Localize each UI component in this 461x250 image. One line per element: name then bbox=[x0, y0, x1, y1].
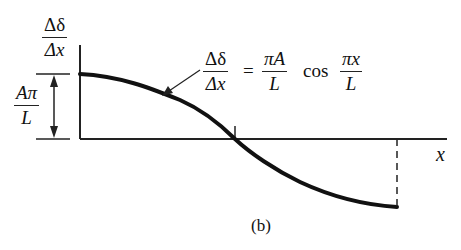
equation-lhs: Δδ Δx bbox=[203, 48, 228, 95]
fraction-bar bbox=[42, 37, 67, 38]
y-label-denominator: Δx bbox=[43, 39, 67, 61]
y-label-numerator: Δδ bbox=[42, 14, 67, 36]
equals-sign: = bbox=[243, 60, 254, 82]
coef-denominator: L bbox=[267, 73, 282, 95]
diagram-canvas bbox=[0, 0, 461, 250]
equation-coefficient: πA L bbox=[262, 48, 287, 95]
coef-numerator: πA bbox=[262, 48, 287, 70]
cos-function: cos bbox=[303, 60, 328, 82]
arrowhead-down-icon bbox=[50, 126, 58, 138]
amplitude-label: Aπ L bbox=[14, 82, 39, 129]
fraction-bar bbox=[340, 71, 362, 72]
lhs-numerator: Δδ bbox=[203, 48, 228, 70]
amplitude-denominator: L bbox=[19, 107, 34, 129]
arg-numerator: πx bbox=[340, 48, 362, 70]
amplitude-numerator: Aπ bbox=[14, 82, 39, 104]
figure-caption: (b) bbox=[251, 216, 271, 236]
arrowhead-up-icon bbox=[50, 75, 58, 87]
arg-denominator: L bbox=[344, 73, 359, 95]
x-axis-label: x bbox=[436, 143, 445, 166]
pointer-line bbox=[166, 70, 200, 93]
lhs-denominator: Δx bbox=[204, 73, 228, 95]
y-axis-label: Δδ Δx bbox=[42, 14, 67, 61]
fraction-bar bbox=[262, 71, 287, 72]
equation-argument: πx L bbox=[340, 48, 362, 95]
fraction-bar bbox=[203, 71, 228, 72]
fraction-bar bbox=[14, 105, 39, 106]
